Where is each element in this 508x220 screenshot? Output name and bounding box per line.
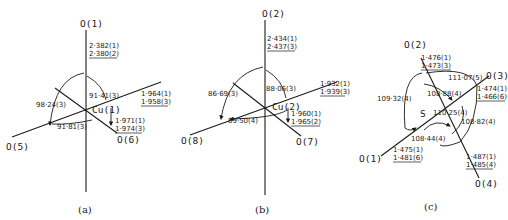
- angle-label-right: 108·82(4): [461, 118, 496, 126]
- distance-right-1: 1·964(1): [141, 90, 171, 98]
- atom-label-o2: O(2): [404, 39, 427, 50]
- angle-label-top-right: 88·06(3): [266, 85, 296, 93]
- angle-label-bottom: 91·81(3): [57, 123, 87, 131]
- panel-caption-b: (b): [255, 204, 269, 215]
- panel-a: O(1) O(5) O(6) Cu(1) 2·382(1) 2·380(2) 1…: [6, 18, 171, 215]
- distance-right-2: 1·466(6): [477, 93, 507, 101]
- angle-label-bottom: 89·50(4): [228, 117, 258, 125]
- atom-label-o1: O(1): [359, 153, 382, 164]
- angle-label-left: 98·24(3): [36, 101, 66, 109]
- distance-right-2: 1·939(3): [320, 88, 350, 96]
- angle-label-left: 86·69(3): [208, 90, 238, 98]
- distance-lower-right-2: 1·485(4): [466, 161, 496, 169]
- angle-arc-inner-bottom: [424, 123, 450, 130]
- panel-c: O(2) O(3) O(1) O(4) S 1·476(1) 1·473(3) …: [359, 39, 508, 212]
- panel-caption-c: (c): [424, 201, 438, 212]
- atom-label-o6: O(6): [117, 134, 140, 145]
- center-label-s: S: [420, 108, 426, 119]
- distance-lower-right-2: 1·965(2): [291, 118, 321, 126]
- atom-label-o4: O(4): [475, 178, 498, 189]
- distance-top-1: 2·434(1): [267, 35, 297, 43]
- distance-left-2: 1·481(6): [393, 154, 423, 162]
- distance-top-2: 1·473(3): [421, 62, 451, 70]
- angle-label-bottom: 108·44(4): [411, 135, 446, 143]
- distance-top-2: 2·437(3): [267, 43, 297, 51]
- atom-label-o1: O(1): [80, 18, 103, 29]
- angle-label-inner-right: 110·25(4): [433, 109, 468, 117]
- atom-label-o7: O(7): [296, 136, 319, 147]
- angle-arc-top-right: [266, 70, 286, 98]
- distance-top-2: 2·380(2): [89, 50, 119, 58]
- center-label-cu1: Cu(1): [92, 104, 121, 115]
- panel-b: O(2) O(8) O(7) Cu(2) 2·434(1) 2·437(3) 1…: [181, 8, 350, 215]
- distance-top-1: 1·476(1): [421, 54, 451, 62]
- distance-right-2: 1·958(3): [141, 98, 171, 106]
- atom-label-o8: O(8): [181, 135, 204, 146]
- distance-top-1: 2·382(1): [89, 42, 119, 50]
- distance-right-1: 1·474(1): [477, 85, 507, 93]
- distance-lower-right-2: 1·974(3): [115, 125, 145, 133]
- atom-label-o2: O(2): [262, 8, 285, 19]
- distance-right-1: 1·932(1): [320, 80, 350, 88]
- atom-label-o3: O(3): [486, 70, 508, 81]
- distance-left-1: 1·475(1): [393, 146, 423, 154]
- distance-lower-right-1: 1·960(1): [291, 110, 321, 118]
- atom-label-o5: O(5): [6, 141, 29, 152]
- angle-label-top-right: 91·41(3): [89, 92, 119, 100]
- angle-label-top: 111·07(5): [448, 74, 483, 82]
- angle-label-left: 109·32(4): [377, 95, 412, 103]
- figure: O(1) O(5) O(6) Cu(1) 2·382(1) 2·380(2) 1…: [0, 0, 508, 220]
- distance-lower-right-1: 1·487(1): [466, 153, 496, 161]
- panel-caption-a: (a): [78, 204, 92, 215]
- angle-label-inner-top: 108·88(4): [427, 90, 462, 98]
- distance-lower-right-1: 1·971(1): [115, 117, 145, 125]
